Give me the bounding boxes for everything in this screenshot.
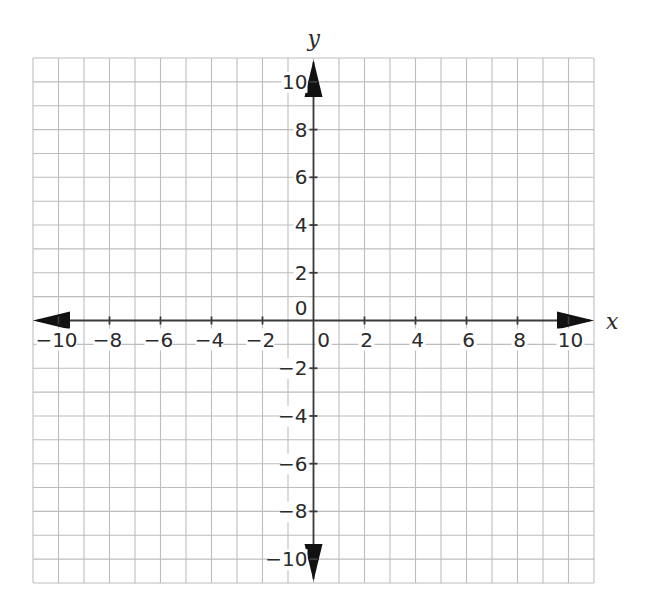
x-tick-label: −10 — [35, 328, 77, 352]
x-tick-label: 6 — [462, 328, 475, 352]
y-tick-label: 6 — [295, 165, 308, 189]
axes — [33, 60, 594, 581]
y-tick-label: −10 — [265, 547, 307, 571]
x-tick-label: −8 — [93, 328, 122, 352]
x-axis-label: x — [606, 309, 619, 334]
y-tick-label: 4 — [295, 213, 308, 237]
coordinate-plane: −10−8−6−4−20246810 −10−8−6−4−20246810 x … — [0, 0, 652, 611]
x-tick-label: 4 — [411, 328, 424, 352]
y-tick-label: 2 — [295, 261, 308, 285]
x-tick-label: −4 — [195, 328, 224, 352]
x-tick-label: 2 — [360, 328, 373, 352]
y-tick-label: 10 — [282, 70, 307, 94]
y-tick-label: 8 — [295, 118, 308, 142]
y-axis-label: y — [307, 26, 321, 51]
y-tick-label: −6 — [278, 452, 307, 476]
y-tick-label: −8 — [278, 499, 307, 523]
x-tick-label: 10 — [558, 328, 583, 352]
y-tick-label: −4 — [278, 404, 307, 428]
x-tick-label: 8 — [513, 328, 526, 352]
x-tick-label: −6 — [144, 328, 173, 352]
x-tick-label: 0 — [317, 328, 330, 352]
x-tick-label: −2 — [246, 328, 275, 352]
y-tick-label: 0 — [295, 296, 308, 320]
x-axis-tick-labels: −10−8−6−4−20246810 — [35, 328, 584, 352]
y-tick-label: −2 — [278, 356, 307, 380]
